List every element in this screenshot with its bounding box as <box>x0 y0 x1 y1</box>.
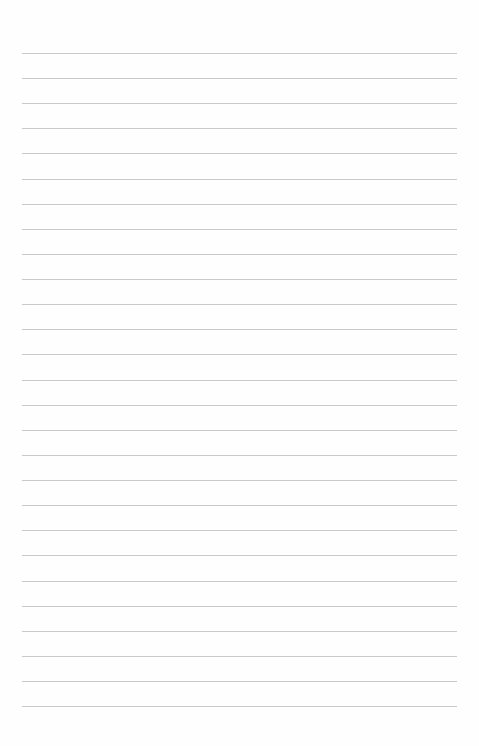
ruled-line <box>22 279 457 280</box>
ruled-line <box>22 53 457 54</box>
ruled-line <box>22 656 457 657</box>
ruled-line <box>22 581 457 582</box>
ruled-line <box>22 505 457 506</box>
ruled-line <box>22 354 457 355</box>
ruled-line <box>22 455 457 456</box>
ruled-line <box>22 179 457 180</box>
ruled-line <box>22 204 457 205</box>
ruled-line <box>22 606 457 607</box>
ruled-line <box>22 530 457 531</box>
ruled-line <box>22 103 457 104</box>
ruled-line <box>22 153 457 154</box>
ruled-line <box>22 229 457 230</box>
ruled-line <box>22 681 457 682</box>
lined-page <box>0 0 479 746</box>
ruled-line <box>22 380 457 381</box>
ruled-line <box>22 128 457 129</box>
ruled-line <box>22 304 457 305</box>
ruled-line <box>22 329 457 330</box>
ruled-line <box>22 254 457 255</box>
ruled-line <box>22 78 457 79</box>
ruled-line <box>22 430 457 431</box>
ruled-line <box>22 480 457 481</box>
ruled-line <box>22 706 457 707</box>
ruled-line <box>22 405 457 406</box>
ruled-line <box>22 631 457 632</box>
ruled-line <box>22 555 457 556</box>
